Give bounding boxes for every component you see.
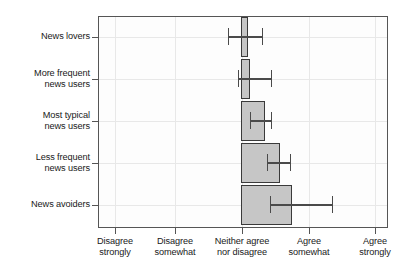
errorbar-line-news-lovers (228, 36, 263, 37)
ytick-label-most-typical-news-users: Most typical news users (0, 110, 90, 132)
errorbar-cap-high-most-typical-news-users (271, 112, 272, 129)
ytick-label-news-lovers: News lovers (0, 31, 90, 42)
errorbar-cap-low-most-typical-news-users (250, 112, 251, 129)
gridline-vertical-1 (115, 17, 116, 227)
tick-x-3 (242, 228, 243, 234)
errorbar-line-most-typical-news-users (250, 120, 272, 121)
errorbar-line-more-frequent-news-users (238, 78, 272, 79)
errorbar-line-news-avoiders (270, 204, 333, 205)
gridline-vertical-2 (175, 17, 176, 227)
tick-x-2 (175, 228, 176, 234)
ytick-label-more-frequent-news-users: More frequent news users (0, 68, 90, 90)
tick-y-5 (92, 205, 98, 206)
tick-y-1 (92, 37, 98, 38)
errorbar-cap-low-more-frequent-news-users (238, 70, 239, 87)
tick-x-1 (115, 228, 116, 234)
tick-y-3 (92, 121, 98, 122)
errorbar-cap-high-more-frequent-news-users (271, 70, 272, 87)
errorbar-line-less-frequent-news-users (267, 162, 291, 163)
errorbar-cap-low-news-lovers (228, 28, 229, 45)
ytick-label-news-avoiders: News avoiders (0, 199, 90, 210)
tick-y-2 (92, 79, 98, 80)
tick-y-4 (92, 163, 98, 164)
ytick-label-less-frequent-news-users: Less frequent news users (0, 152, 90, 174)
errorbar-cap-low-less-frequent-news-users (267, 154, 268, 171)
errorbar-cap-high-news-lovers (262, 28, 263, 45)
errorbar-cap-low-news-avoiders (270, 196, 271, 213)
xtick-label-agree-strongly: Agree strongly (337, 236, 413, 258)
xtick-label-agree-somewhat: Agree somewhat (271, 236, 347, 258)
errorbar-cap-high-less-frequent-news-users (290, 154, 291, 171)
tick-x-5 (375, 228, 376, 234)
tick-x-4 (309, 228, 310, 234)
gridline-vertical-5 (375, 17, 376, 227)
errorbar-cap-high-news-avoiders (332, 196, 333, 213)
gridline-vertical-4 (309, 17, 310, 227)
chart-container: News lovers More frequent news users Mos… (0, 0, 414, 277)
